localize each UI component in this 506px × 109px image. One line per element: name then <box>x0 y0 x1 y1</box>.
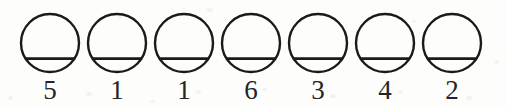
circle-chord-icon <box>353 11 417 75</box>
symbol-digit-label: 5 <box>18 76 82 105</box>
symbol-digit-label: 1 <box>85 76 149 105</box>
symbol-item: 1 <box>85 0 149 109</box>
symbol-digit-label: 1 <box>152 76 216 105</box>
circle-chord-icon <box>219 11 283 75</box>
symbol-item: 3 <box>286 0 350 109</box>
circle-chord-icon <box>152 11 216 75</box>
symbol-digit-label: 3 <box>286 76 350 105</box>
figure-canvas: 5116342 <box>0 0 506 109</box>
circle-chord-icon <box>85 11 149 75</box>
circle-chord-icon <box>420 11 484 75</box>
symbol-item: 1 <box>152 0 216 109</box>
symbol-item: 2 <box>420 0 484 109</box>
circle-chord-icon <box>18 11 82 75</box>
symbol-item: 5 <box>18 0 82 109</box>
symbol-item: 4 <box>353 0 417 109</box>
circle-chord-icon <box>286 11 350 75</box>
symbol-digit-label: 6 <box>219 76 283 105</box>
symbol-item: 6 <box>219 0 283 109</box>
symbol-sequence: 5116342 <box>0 0 506 109</box>
symbol-digit-label: 2 <box>420 76 484 105</box>
symbol-digit-label: 4 <box>353 76 417 105</box>
